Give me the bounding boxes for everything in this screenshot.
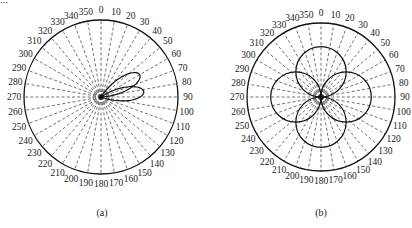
angle-tick-label: 190 <box>79 178 94 188</box>
angle-tick-label: 220 <box>38 159 53 169</box>
angle-tick-label: 90 <box>183 92 193 102</box>
angle-tick-label: 210 <box>50 168 65 178</box>
polar-plot-a: 0102030405060708090100110120130140150160… <box>7 5 194 189</box>
angle-tick-label: 310 <box>27 36 42 46</box>
center-dot <box>99 95 103 99</box>
angle-tick-label: 290 <box>12 63 27 73</box>
angle-tick-label: 20 <box>345 13 355 23</box>
angle-tick-label: 270 <box>230 92 245 102</box>
polar-plots: 0102030405060708090100110120130140150160… <box>0 0 412 228</box>
grid-line <box>321 40 369 97</box>
angle-tick-label: 140 <box>150 159 165 169</box>
angle-tick-label: 180 <box>314 176 329 186</box>
angle-tick-label: 300 <box>241 50 256 60</box>
angle-tick-label: 10 <box>111 7 121 17</box>
angle-tick-label: 130 <box>378 146 393 156</box>
angle-tick-label: 40 <box>152 26 162 36</box>
angle-tick-label: 130 <box>161 148 176 158</box>
angle-tick-label: 260 <box>231 107 246 117</box>
angle-tick-label: 160 <box>343 171 358 181</box>
angle-tick-label: 160 <box>124 174 139 184</box>
grid-line <box>321 49 378 97</box>
angle-tick-label: 70 <box>395 64 405 74</box>
angle-tick-label: 280 <box>8 77 23 87</box>
angle-tick-label: 30 <box>140 17 150 27</box>
grid-line <box>321 97 369 154</box>
caption-a: (a) <box>96 207 107 219</box>
angle-tick-label: 230 <box>250 146 265 156</box>
angle-tick-label: 110 <box>176 122 190 132</box>
angle-tick-label: 80 <box>182 77 192 87</box>
angle-tick-label: 150 <box>356 165 371 175</box>
angle-tick-label: 310 <box>250 38 265 48</box>
angle-tick-label: 320 <box>38 26 53 36</box>
angle-tick-label: 20 <box>126 11 136 21</box>
grid-line <box>264 97 321 145</box>
angle-tick-label: 280 <box>231 78 246 88</box>
angle-tick-label: 170 <box>328 175 343 185</box>
angle-tick-label: 240 <box>19 136 34 146</box>
angle-tick-label: 330 <box>50 17 65 27</box>
angle-tick-label: 110 <box>393 121 407 131</box>
angle-tick-label: 170 <box>109 178 124 188</box>
angle-tick-label: 290 <box>235 64 250 74</box>
angle-tick-label: 200 <box>285 171 300 181</box>
angle-tick-label: 250 <box>235 121 250 131</box>
angle-tick-label: 0 <box>99 5 104 15</box>
center-dot <box>319 95 323 99</box>
angle-tick-label: 30 <box>358 20 368 30</box>
angle-tick-label: 50 <box>163 36 173 46</box>
angle-tick-label: 50 <box>381 38 391 48</box>
grid-line <box>321 97 378 145</box>
angle-tick-label: 270 <box>7 92 22 102</box>
angle-tick-label: 180 <box>94 179 109 189</box>
grid-line <box>264 49 321 97</box>
caption-b: (b) <box>315 207 327 219</box>
angle-tick-label: 220 <box>260 157 275 167</box>
angle-tick-label: 200 <box>64 174 79 184</box>
angle-tick-label: 240 <box>241 134 256 144</box>
angle-tick-label: 100 <box>180 107 195 117</box>
angle-tick-label: 350 <box>299 10 314 20</box>
angle-tick-label: 190 <box>299 175 314 185</box>
angle-tick-label: 120 <box>387 134 402 144</box>
angle-tick-label: 340 <box>64 11 79 21</box>
angle-tick-label: 250 <box>12 122 27 132</box>
angle-tick-label: 300 <box>19 49 34 59</box>
angle-tick-label: 0 <box>319 8 324 18</box>
angle-tick-label: 100 <box>397 107 412 117</box>
angle-tick-label: 350 <box>79 7 94 17</box>
polar-plot-b: 0102030405060708090100110120130140150160… <box>230 8 411 186</box>
angle-tick-label: 60 <box>389 50 399 60</box>
angle-tick-label: 60 <box>172 49 182 59</box>
angle-tick-label: 260 <box>8 107 23 117</box>
angle-tick-label: 150 <box>137 168 152 178</box>
angle-tick-label: 80 <box>399 78 409 88</box>
angle-tick-label: 120 <box>169 136 184 146</box>
angle-tick-label: 340 <box>285 13 300 23</box>
angle-tick-label: 40 <box>370 28 380 38</box>
angle-tick-label: 10 <box>331 10 341 20</box>
angle-tick-label: 90 <box>400 92 410 102</box>
grid-line <box>273 97 321 154</box>
angle-tick-label: 230 <box>27 148 42 158</box>
angle-tick-label: 70 <box>178 63 188 73</box>
grid-line <box>273 40 321 97</box>
